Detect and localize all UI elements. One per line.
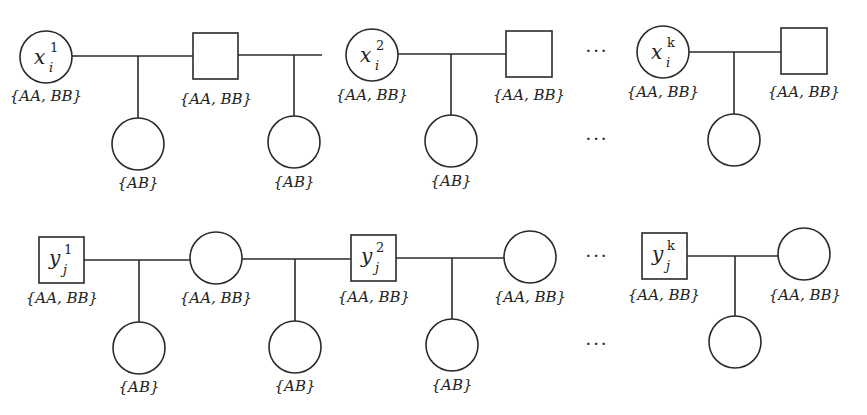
founder-spouse-k: {AA, BB} [769, 228, 841, 304]
child-circle [112, 118, 164, 170]
male-square [39, 237, 84, 283]
founder-spouse-2: {AA, BB} [493, 31, 565, 104]
genotype-label: {AB} [275, 377, 316, 395]
founder-y1: y 1 j {AA, BB} [26, 237, 98, 307]
child-circle [708, 114, 760, 166]
genotype-label: {AA, BB} [627, 83, 699, 101]
female-circle [190, 232, 242, 284]
founder-x2: x 2 i {AA, BB} [336, 29, 408, 104]
symbol: y [360, 244, 373, 268]
child-2: {AB} [269, 321, 321, 395]
superscript: 2 [376, 240, 384, 255]
superscript: k [667, 35, 675, 50]
genotype-label: {AA, BB} [769, 286, 841, 304]
child-circle [425, 115, 477, 167]
symbol: y [48, 246, 61, 270]
genotype-label: {AB} [432, 376, 473, 394]
ellipsis-children: ··· [585, 333, 608, 354]
superscript: 1 [64, 242, 72, 257]
genotype-label: {AB} [274, 173, 315, 191]
ellipsis-children: ··· [585, 128, 608, 149]
female-circle [637, 26, 689, 78]
genotype-label: {AA, BB} [628, 286, 700, 304]
child-circle [113, 322, 165, 374]
male-square [781, 28, 827, 74]
child-k [709, 316, 761, 368]
subscript: i [49, 60, 53, 75]
symbol: x [34, 45, 45, 69]
child-2: {AB} [268, 116, 320, 191]
founder-spouse-2: {AA, BB} [494, 231, 566, 306]
child-3: {AB} [425, 115, 477, 190]
superscript: 1 [50, 40, 58, 55]
female-circle [20, 31, 72, 83]
child-1: {AB} [112, 118, 164, 192]
genotype-label: {AA, BB} [180, 289, 252, 307]
founder-xk: x k i {AA, BB} [627, 26, 699, 101]
subscript: i [375, 58, 379, 73]
genotype-label: {AA, BB} [10, 87, 82, 105]
female-circle [778, 228, 830, 280]
child-3: {AB} [426, 319, 478, 394]
genotype-label: {AB} [431, 172, 472, 190]
y-row: y 1 j {AA, BB} {AA, BB} y 2 j {AA, BB} {… [26, 228, 841, 396]
symbol: y [651, 242, 664, 266]
male-square [642, 233, 687, 279]
founder-spouse-1: {AA, BB} [180, 232, 252, 307]
founder-x1: x 1 i {AA, BB} [10, 31, 82, 105]
superscript: 2 [376, 38, 384, 53]
child-1: {AB} [113, 322, 165, 396]
genotype-label: {AA, BB} [768, 83, 840, 101]
pedigree-diagram: x 1 i {AA, BB} {AA, BB} x 2 i {AA, BB} {… [0, 0, 867, 415]
genotype-label: {AA, BB} [180, 90, 252, 108]
founder-yk: y k j {AA, BB} [628, 233, 700, 304]
founder-y2: y 2 j {AA, BB} [338, 235, 410, 306]
child-circle [268, 116, 320, 168]
founder-spouse-k: {AA, BB} [768, 28, 840, 101]
symbol: x [360, 43, 371, 67]
male-square [351, 235, 396, 281]
genotype-label: {AA, BB} [26, 289, 98, 307]
male-square [506, 31, 552, 77]
child-circle [269, 321, 321, 373]
founder-spouse-1: {AA, BB} [180, 33, 252, 108]
x-row: x 1 i {AA, BB} {AA, BB} x 2 i {AA, BB} {… [10, 26, 840, 192]
genotype-label: {AB} [118, 174, 159, 192]
superscript: k [667, 238, 675, 253]
ellipsis-founders: ··· [585, 40, 608, 61]
female-circle [504, 231, 556, 283]
genotype-label: {AA, BB} [336, 86, 408, 104]
female-circle [346, 29, 398, 81]
genotype-label: {AA, BB} [338, 288, 410, 306]
ellipsis-founders: ··· [585, 245, 608, 266]
child-k [708, 114, 760, 166]
genotype-label: {AB} [119, 378, 160, 396]
subscript: i [666, 55, 670, 70]
male-square [193, 33, 238, 79]
genotype-label: {AA, BB} [493, 86, 565, 104]
genotype-label: {AA, BB} [494, 288, 566, 306]
symbol: x [651, 40, 662, 64]
child-circle [709, 316, 761, 368]
child-circle [426, 319, 478, 371]
